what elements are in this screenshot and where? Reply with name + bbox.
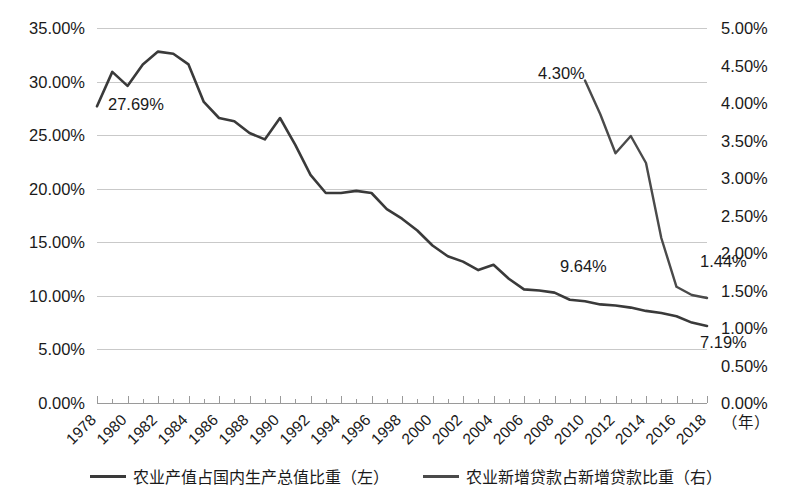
left-axis-labels: 0.00%5.00%10.00%15.00%20.00%25.00%30.00%… [29, 19, 85, 412]
legend-swatch-gdp-share [90, 475, 126, 478]
x-axis-year-label: 1990 [246, 411, 283, 448]
x-axis-year-label: 2014 [612, 411, 649, 448]
x-axis-year-label: 1992 [276, 411, 312, 447]
x-axis-year-label: 1982 [124, 411, 160, 447]
legend-label-loan-share: 农业新增贷款占新增贷款比重（右） [466, 464, 722, 488]
x-axis-year-label: 2016 [642, 411, 678, 447]
x-axis-year-label: 2004 [459, 411, 496, 448]
right-axis-tick-label: 5.00% [721, 19, 768, 37]
legend-label-gdp-share: 农业产值占国内生产总值比重（左） [133, 464, 389, 488]
x-axis-unit-label: （年） [722, 414, 770, 431]
left-axis-tick-label: 35.00% [29, 19, 85, 37]
left-axis-tick-label: 5.00% [38, 340, 85, 358]
x-axis-year-label: 2012 [581, 411, 617, 447]
right-axis-tick-label: 3.00% [721, 169, 768, 187]
right-axis-tick-label: 1.50% [721, 282, 768, 300]
x-axis-year-labels: 1978198019821984198619881990199219941996… [63, 411, 709, 448]
series-line-gdp-share [97, 52, 707, 326]
left-axis-tick-label: 15.00% [29, 233, 85, 251]
data-annotations: 27.69%4.30%9.64%1.44%7.19% [108, 64, 747, 351]
right-axis-tick-label: 4.00% [721, 94, 768, 112]
x-axis-year-label: 1984 [154, 411, 191, 448]
legend-item-loan-share[interactable]: 农业新增贷款占新增贷款比重（右） [423, 464, 722, 488]
data-label: 9.64% [560, 257, 607, 275]
left-axis-tick-label: 0.00% [38, 394, 85, 412]
x-axis-year-label: 2000 [398, 411, 435, 448]
right-axis-tick-label: 2.50% [721, 207, 768, 225]
chart-legend: 农业产值占国内生产总值比重（左） 农业新增贷款占新增贷款比重（右） [0, 462, 812, 490]
chart-container: 0.00%5.00%10.00%15.00%20.00%25.00%30.00%… [0, 0, 812, 490]
x-axis-year-label: 2018 [673, 411, 709, 447]
data-label: 1.44% [700, 252, 747, 270]
left-axis-tick-label: 20.00% [29, 180, 85, 198]
x-axis-year-label: 1986 [185, 411, 221, 447]
line-chart: 0.00%5.00%10.00%15.00%20.00%25.00%30.00%… [0, 0, 812, 490]
x-axis-year-label: 2006 [490, 411, 526, 447]
x-axis-year-label: 1988 [215, 411, 251, 447]
data-label: 7.19% [700, 333, 747, 351]
right-axis-tick-label: 3.50% [721, 132, 768, 150]
data-label: 4.30% [538, 64, 585, 82]
x-axis-year-label: 2010 [551, 411, 588, 448]
gridlines [97, 29, 707, 350]
right-axis-labels: 0.00%0.50%1.00%1.50%2.00%2.50%3.00%3.50%… [721, 19, 768, 412]
x-axis-year-label: 1998 [368, 411, 404, 447]
legend-swatch-loan-share [423, 475, 459, 478]
x-axis-year-label: 1978 [63, 411, 99, 447]
right-axis-tick-label: 4.50% [721, 57, 768, 75]
left-axis-tick-label: 30.00% [29, 73, 85, 91]
right-axis-tick-label: 0.50% [721, 357, 768, 375]
left-axis-tick-label: 10.00% [29, 287, 85, 305]
legend-item-gdp-share[interactable]: 农业产值占国内生产总值比重（左） [90, 464, 389, 488]
x-axis-year-label: 2002 [429, 411, 465, 447]
x-axis-tickmarks [98, 396, 708, 403]
data-label: 27.69% [108, 95, 164, 113]
x-axis-year-label: 1996 [337, 411, 373, 447]
x-axis-year-label: 2008 [520, 411, 556, 447]
left-axis-tick-label: 25.00% [29, 126, 85, 144]
x-axis-year-label: 1994 [307, 411, 344, 448]
x-axis-year-label: 1980 [93, 411, 130, 448]
right-axis-tick-label: 0.00% [721, 394, 768, 412]
